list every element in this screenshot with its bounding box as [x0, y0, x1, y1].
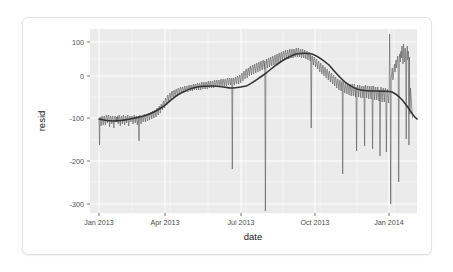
x-axis-tick-labels: Jan 2013 Apr 2013 Jul 2013 Oct 2013 Jan …: [84, 218, 404, 227]
x-tick-label-apr-2013: Apr 2013: [150, 218, 179, 227]
chart-area: 100 0 -100 -200 -300 Jan 2013 Apr 2013 J…: [23, 18, 431, 254]
plot-panel-background: [90, 29, 417, 213]
y-tick-label-neg200: -200: [70, 157, 84, 166]
x-axis-title: date: [244, 231, 263, 242]
y-tick-label-neg300: -300: [70, 200, 84, 209]
y-axis-tick-labels: 100 0 -100 -200 -300: [70, 38, 84, 209]
y-tick-label-0: 0: [80, 72, 84, 81]
screenshot-root: 100 0 -100 -200 -300 Jan 2013 Apr 2013 J…: [0, 0, 453, 272]
y-tick-label-neg100: -100: [70, 114, 84, 123]
residual-time-series-chart: 100 0 -100 -200 -300 Jan 2013 Apr 2013 J…: [23, 18, 432, 255]
y-axis-title: resid: [36, 111, 47, 132]
plot-card: 100 0 -100 -200 -300 Jan 2013 Apr 2013 J…: [22, 17, 432, 255]
x-tick-label-jan-2013: Jan 2013: [84, 218, 114, 227]
y-axis-tick-marks: [87, 42, 90, 204]
x-tick-label-jan-2014: Jan 2014: [374, 218, 404, 227]
y-tick-label-100: 100: [72, 38, 84, 47]
x-tick-label-oct-2013: Oct 2013: [300, 218, 329, 227]
x-tick-label-jul-2013: Jul 2013: [227, 218, 254, 227]
x-axis-tick-marks: [99, 213, 389, 216]
